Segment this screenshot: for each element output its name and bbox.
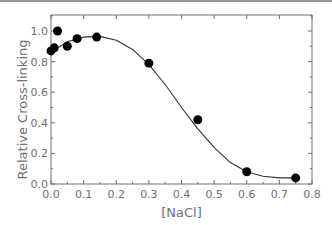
y-tick-label: 0.4 bbox=[31, 117, 49, 130]
y-tick-label: 0.8 bbox=[31, 56, 49, 69]
data-point bbox=[63, 42, 72, 51]
y-tick-label: 0.2 bbox=[31, 147, 49, 160]
y-tick-label: 1.0 bbox=[31, 25, 49, 38]
y-tick-label: 0.6 bbox=[31, 86, 49, 99]
data-point bbox=[53, 27, 62, 36]
data-point bbox=[92, 33, 101, 42]
data-point bbox=[73, 34, 82, 43]
x-axis-title: [NaCl] bbox=[161, 205, 202, 220]
x-tick-label: 0.6 bbox=[238, 188, 256, 201]
data-point bbox=[291, 173, 300, 182]
y-axis-title: Relative Cross-linking bbox=[15, 40, 30, 180]
data-point bbox=[50, 43, 59, 52]
fit-curve bbox=[51, 36, 296, 178]
x-tick-label: 0.3 bbox=[140, 188, 158, 201]
data-point bbox=[193, 115, 202, 124]
data-point bbox=[242, 167, 251, 176]
x-tick-label: 0.7 bbox=[271, 188, 289, 201]
chart: 0.00.10.20.30.40.50.60.70.80.00.20.40.60… bbox=[0, 0, 332, 225]
plot-frame bbox=[51, 15, 312, 184]
x-tick-label: 0.8 bbox=[303, 188, 321, 201]
x-tick-label: 0.1 bbox=[75, 188, 93, 201]
x-tick-label: 0.5 bbox=[205, 188, 223, 201]
x-tick-label: 0.2 bbox=[108, 188, 126, 201]
data-point bbox=[144, 59, 153, 68]
x-tick-label: 0.4 bbox=[173, 188, 191, 201]
y-tick-label: 0.0 bbox=[31, 178, 49, 191]
